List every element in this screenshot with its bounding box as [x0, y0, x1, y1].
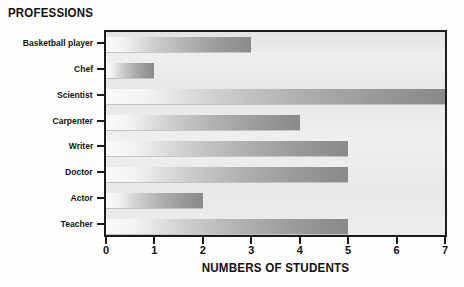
y-axis-tick [97, 223, 104, 225]
x-axis-tick-label: 2 [200, 244, 206, 256]
x-axis-tick-label: 0 [103, 244, 109, 256]
x-axis-tick [250, 237, 252, 244]
y-axis-tick [97, 42, 104, 44]
y-axis-label-writer: Writer [68, 140, 93, 151]
bar-row [106, 37, 445, 52]
x-axis-tick [347, 237, 349, 244]
bar-doctor [106, 167, 348, 182]
bar-row [106, 63, 445, 78]
x-axis-tick-label: 4 [297, 244, 303, 256]
bar-teacher [106, 219, 348, 234]
x-axis-tick [153, 237, 155, 244]
y-axis-label-scientist: Scientist [57, 89, 93, 100]
bar-writer [106, 141, 348, 156]
bar-row [106, 89, 445, 104]
bar-actor [106, 193, 203, 208]
y-axis-category-labels: Basketball playerChefScientistCarpenterW… [0, 30, 104, 237]
y-axis-tick [97, 68, 104, 70]
y-axis-label-teacher: Teacher [61, 218, 93, 229]
bar-carpenter [106, 115, 300, 130]
bars-layer [106, 32, 445, 235]
x-axis-tick-label: 7 [442, 244, 448, 256]
y-axis-tick [97, 94, 104, 96]
y-axis-label-carpenter: Carpenter [53, 115, 93, 126]
bar-row [106, 115, 445, 130]
bar-row [106, 193, 445, 208]
bar-chef [106, 63, 154, 78]
x-axis-tick [299, 237, 301, 244]
y-axis-label-doctor: Doctor [65, 166, 93, 177]
plot-area [104, 30, 447, 237]
x-axis-tick [202, 237, 204, 244]
x-axis-tick-label: 3 [248, 244, 254, 256]
x-axis-tick-label: 1 [151, 244, 157, 256]
chart-title: PROFESSIONS [8, 6, 93, 20]
y-axis-tick [97, 171, 104, 173]
x-axis-tick [396, 237, 398, 244]
y-axis-tick [97, 197, 104, 199]
bar-row [106, 219, 445, 234]
x-axis-tick-label: 6 [394, 244, 400, 256]
bar-row [106, 141, 445, 156]
bar-row [106, 167, 445, 182]
y-axis-label-chef: Chef [74, 63, 93, 74]
bar-scientist [106, 89, 445, 104]
y-axis-tick [97, 145, 104, 147]
bar-basketball-player [106, 37, 251, 52]
x-axis-tick [444, 237, 446, 244]
x-axis-tick [105, 237, 107, 244]
bar-chart-figure: PROFESSIONS Basketball playerChefScienti… [0, 0, 464, 287]
x-axis-tick-label: 5 [345, 244, 351, 256]
y-axis-label-actor: Actor [71, 192, 93, 203]
y-axis-tick [97, 120, 104, 122]
x-axis-title: NUMBERS OF STUDENTS [116, 261, 435, 275]
y-axis-label-basketball-player: Basketball player [23, 37, 93, 48]
